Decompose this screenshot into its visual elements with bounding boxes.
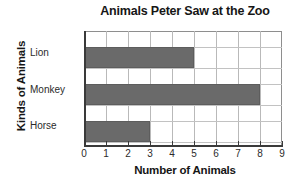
- x-tick-0: [84, 141, 85, 146]
- chart-title: Animals Peter Saw at the Zoo: [78, 4, 292, 18]
- gridline-horizontal-6: [84, 142, 282, 143]
- x-tick-3: [150, 141, 151, 146]
- gridline-horizontal-4: [84, 105, 282, 106]
- x-tick-label-5: 5: [186, 148, 202, 159]
- x-tick-label-2: 2: [120, 148, 136, 159]
- bar-horse[interactable]: [84, 121, 150, 142]
- plot-right-border: [281, 31, 282, 145]
- gridline-horizontal-2: [84, 68, 282, 69]
- y-axis-line: [84, 31, 86, 147]
- category-label-horse: Horse: [30, 120, 82, 131]
- x-tick-label-8: 8: [252, 148, 268, 159]
- x-tick-6: [216, 141, 217, 146]
- gridline-vertical-8: [260, 31, 261, 145]
- x-tick-label-7: 7: [230, 148, 246, 159]
- x-axis-title: Number of Animals: [78, 164, 292, 176]
- x-tick-label-9: 9: [274, 148, 290, 159]
- x-tick-1: [106, 141, 107, 146]
- y-axis-title: Kinds of Animals: [15, 26, 27, 146]
- x-tick-7: [238, 141, 239, 146]
- x-tick-5: [194, 141, 195, 146]
- x-tick-label-0: 0: [76, 148, 92, 159]
- x-tick-label-3: 3: [142, 148, 158, 159]
- plot-top-border: [84, 31, 282, 32]
- category-label-monkey: Monkey: [30, 84, 82, 95]
- x-tick-label-6: 6: [208, 148, 224, 159]
- x-axis-line: [84, 145, 283, 147]
- x-tick-8: [260, 141, 261, 146]
- x-tick-label-4: 4: [164, 148, 180, 159]
- x-tick-9: [282, 141, 283, 146]
- category-label-lion: Lion: [30, 47, 82, 58]
- plot-area: [84, 31, 282, 145]
- x-tick-2: [128, 141, 129, 146]
- bar-lion[interactable]: [84, 47, 194, 68]
- bar-monkey[interactable]: [84, 84, 260, 105]
- x-tick-4: [172, 141, 173, 146]
- x-tick-label-1: 1: [98, 148, 114, 159]
